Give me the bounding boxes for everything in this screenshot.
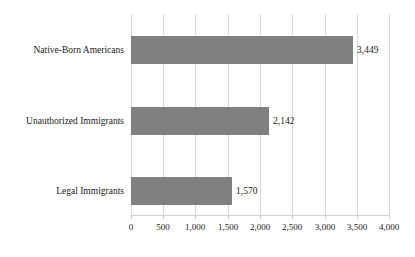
tick-mark-3500 xyxy=(357,215,358,219)
x-tick-label-0: 0 xyxy=(129,222,134,232)
tick-mark-2500 xyxy=(292,215,293,219)
bar-native-born-americans xyxy=(131,36,353,64)
bar-unauthorized-immigrants xyxy=(131,107,269,135)
tick-mark-3000 xyxy=(325,215,326,219)
x-tick-label-3000: 3,000 xyxy=(315,222,335,232)
tick-mark-4000 xyxy=(389,215,390,219)
category-label-1: Unauthorized Immigrants xyxy=(0,116,124,126)
category-label-2: Legal Immigrants xyxy=(0,186,124,196)
value-label-2: 1,570 xyxy=(236,186,257,196)
gridline-4000 xyxy=(389,14,390,215)
x-tick-label-2500: 2,500 xyxy=(282,222,302,232)
tick-mark-500 xyxy=(163,215,164,219)
tick-mark-2000 xyxy=(260,215,261,219)
value-label-0: 3,449 xyxy=(357,45,378,55)
bar-legal-immigrants xyxy=(131,177,232,205)
tick-mark-1500 xyxy=(228,215,229,219)
x-tick-label-500: 500 xyxy=(156,222,170,232)
tick-mark-0 xyxy=(131,215,132,219)
x-tick-label-1500: 1,500 xyxy=(218,222,238,232)
value-label-1: 2,142 xyxy=(273,116,294,126)
chart-screenshot: Native-Born Americans Unauthorized Immig… xyxy=(0,0,415,257)
x-tick-label-2000: 2,000 xyxy=(250,222,270,232)
tick-mark-1000 xyxy=(195,215,196,219)
plot-area xyxy=(131,14,389,215)
x-tick-label-1000: 1,000 xyxy=(185,222,205,232)
x-tick-label-4000: 4,000 xyxy=(379,222,399,232)
category-label-0: Native-Born Americans xyxy=(0,45,124,55)
x-tick-label-3500: 3,500 xyxy=(347,222,367,232)
